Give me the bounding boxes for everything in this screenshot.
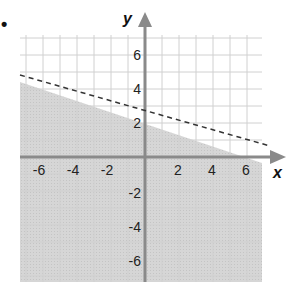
y-tick: -6 — [129, 253, 142, 269]
y-tick: 4 — [133, 81, 141, 97]
x-tick: 2 — [174, 162, 182, 178]
y-tick: -2 — [129, 185, 142, 201]
y-tick: 2 — [133, 115, 141, 131]
shaded-region — [20, 82, 262, 282]
x-tick: -4 — [67, 162, 80, 178]
x-tick: -6 — [33, 162, 46, 178]
x-axis-arrow-icon — [270, 150, 286, 164]
y-tick: -4 — [129, 219, 142, 235]
x-axis-label: x — [272, 164, 283, 181]
y-tick: 6 — [133, 47, 141, 63]
x-tick: 6 — [242, 162, 250, 178]
coordinate-plane: -6 -4 -2 2 4 6 6 4 2 -2 -4 -6 x y — [0, 0, 286, 286]
y-axis-arrow-icon — [138, 12, 152, 27]
y-axis-label: y — [122, 10, 133, 27]
x-tick: -2 — [101, 162, 114, 178]
x-tick: 4 — [208, 162, 216, 178]
